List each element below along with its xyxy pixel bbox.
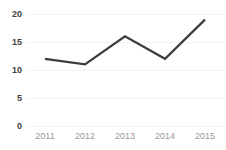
line-chart: 20 15 10 5 0 2011 2012 2013 2014 2015 <box>0 0 226 150</box>
x-tick-label-2015: 2015 <box>185 131 225 141</box>
x-tick-label-2014: 2014 <box>145 131 185 141</box>
series-line-1 <box>45 20 205 65</box>
x-tick-label-2013: 2013 <box>105 131 145 141</box>
x-tick-label-2012: 2012 <box>65 131 105 141</box>
x-tick-label-2011: 2011 <box>25 131 65 141</box>
series-line-layer <box>0 0 226 150</box>
